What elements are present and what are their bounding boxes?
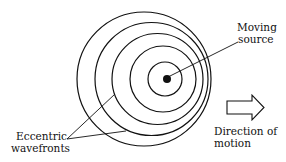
direction-arrow-icon [227, 95, 264, 120]
wavefront-3 [112, 34, 203, 125]
doppler-wavefront-diagram: Moving source Eccentric wavefronts Direc… [0, 0, 286, 162]
moving-source-label-line-2: source [237, 33, 277, 45]
wavefront-leader-line-1 [67, 94, 115, 139]
moving-source-label-line-1: Moving [237, 21, 277, 33]
direction-of-motion-label-line-1: Direction of [214, 125, 277, 137]
eccentric-wavefronts-label-line-2: wavefronts [11, 142, 67, 154]
eccentric-wavefronts-label-line-1: Eccentric [11, 130, 67, 142]
moving-source-label: Moving source [237, 21, 277, 45]
wavefront-leader-line-2 [67, 131, 126, 139]
direction-of-motion-label-line-2: motion [214, 137, 277, 149]
direction-of-motion-label: Direction of motion [214, 125, 277, 149]
wavefront-5 [77, 12, 211, 146]
eccentric-wavefronts-label: Eccentric wavefronts [11, 130, 67, 154]
